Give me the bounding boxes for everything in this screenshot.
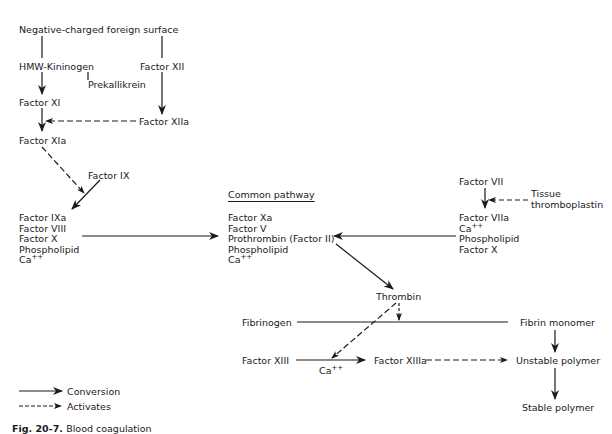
intrinsic-complex: Factor IXa Factor VIII Factor X Phosphol… <box>19 213 79 266</box>
extrinsic-complex-item: Factor X <box>459 245 519 256</box>
legend-activates-label: Activates <box>67 401 111 412</box>
label-hmw-kininogen: HMW-Kininogen <box>19 61 94 72</box>
label-factor-xiia: Factor XIIa <box>139 116 189 127</box>
arrow-thrombin-fxiii <box>332 303 396 358</box>
label-unstable-polymer: Unstable polymer <box>516 355 600 366</box>
extrinsic-complex-item: Factor VIIa <box>459 213 519 224</box>
label-negative-surface: Negative-charged foreign surface <box>19 24 178 35</box>
intrinsic-complex-item: Factor IXa <box>19 213 79 224</box>
label-factor-xiii: Factor XIII <box>242 355 289 366</box>
label-factor-xii: Factor XII <box>140 61 184 72</box>
label-stable-polymer: Stable polymer <box>522 402 594 413</box>
arrow-fxia-activates <box>42 147 84 193</box>
thromboplastin-line: thromboplastin <box>531 200 603 211</box>
common-pathway-header: Common pathway <box>228 189 315 200</box>
figure-caption: Fig. 20-7. Blood coagulation <box>12 423 152 434</box>
label-factor-ix: Factor IX <box>88 170 129 181</box>
label-prekallikrein: Prekallikrein <box>88 79 146 90</box>
extrinsic-complex: Factor VIIa Ca++ Phospholipid Factor X <box>459 213 519 255</box>
common-complex-item: Factor Xa <box>228 213 334 224</box>
label-factor-vii: Factor VII <box>459 176 503 187</box>
caption-text: Blood coagulation <box>66 423 151 434</box>
label-thrombin: Thrombin <box>376 291 421 302</box>
label-factor-xia: Factor XIa <box>19 135 66 146</box>
label-factor-xiiia: Factor XIIIa <box>374 355 427 366</box>
common-complex-item: Ca++ <box>228 255 334 266</box>
arrow-prothrombin-thrombin <box>336 244 393 289</box>
legend-conversion-label: Conversion <box>67 386 120 397</box>
intrinsic-complex-item: Ca++ <box>19 255 79 266</box>
label-fibrinogen: Fibrinogen <box>242 317 292 328</box>
tissue-line: Tissue <box>531 189 603 200</box>
label-ca: Ca++ <box>319 365 343 376</box>
label-fibrin-monomer: Fibrin monomer <box>520 317 595 328</box>
common-complex: Factor Xa Factor V Prothrombin (Factor I… <box>228 213 334 266</box>
label-tissue-thromboplastin: Tissue thromboplastin <box>531 189 603 210</box>
label-factor-xi: Factor XI <box>19 97 60 108</box>
caption-fig-number: Fig. 20-7. <box>12 423 63 434</box>
